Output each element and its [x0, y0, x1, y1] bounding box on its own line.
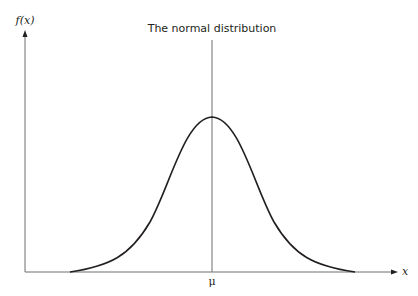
x-axis-arrow-icon [391, 270, 398, 275]
chart-title: The normal distribution [147, 22, 277, 35]
x-axis-label: x [402, 265, 409, 278]
normal-distribution-diagram: The normal distribution f(x) x μ [0, 0, 418, 296]
y-axis-label: f(x) [15, 14, 35, 27]
mean-label: μ [208, 275, 215, 288]
y-axis-arrow-icon [23, 30, 28, 37]
